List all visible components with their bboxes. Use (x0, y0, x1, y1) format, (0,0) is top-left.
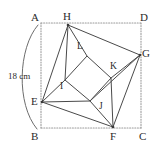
segment-ej (42, 101, 90, 102)
label-vertex-f: F (110, 131, 116, 142)
label-vertex-l: L (77, 42, 83, 52)
connector-segments (42, 25, 140, 127)
label-vertex-i: I (60, 82, 63, 92)
segment-eh (42, 25, 68, 102)
rectangle-abcd (41, 23, 141, 128)
measurement-label-18cm: 18 cm (8, 72, 30, 81)
vertex-dot-g (139, 54, 142, 57)
segment-ji (65, 80, 90, 101)
label-vertex-c: C (139, 131, 146, 142)
geometry-figure: A D C B H G F E L K J I 18 cm (0, 0, 160, 151)
vertex-dot-f (112, 126, 115, 129)
label-vertex-k: K (110, 62, 117, 72)
vertex-markers (41, 24, 142, 129)
segment-il (65, 56, 87, 80)
label-vertex-d: D (140, 12, 148, 23)
label-vertex-b: B (31, 131, 38, 142)
inner-square-ijkl (65, 56, 111, 101)
label-vertex-j: J (99, 102, 103, 112)
vertex-dot-e (41, 101, 44, 104)
quadrilateral-efgh (42, 25, 140, 127)
label-vertex-a: A (31, 12, 39, 23)
label-vertex-g: G (142, 48, 150, 59)
vertex-dot-h (67, 24, 70, 27)
segment-fk (111, 78, 113, 127)
label-vertex-e: E (31, 96, 38, 107)
label-vertex-h: H (63, 11, 71, 22)
segment-lk (87, 56, 111, 78)
